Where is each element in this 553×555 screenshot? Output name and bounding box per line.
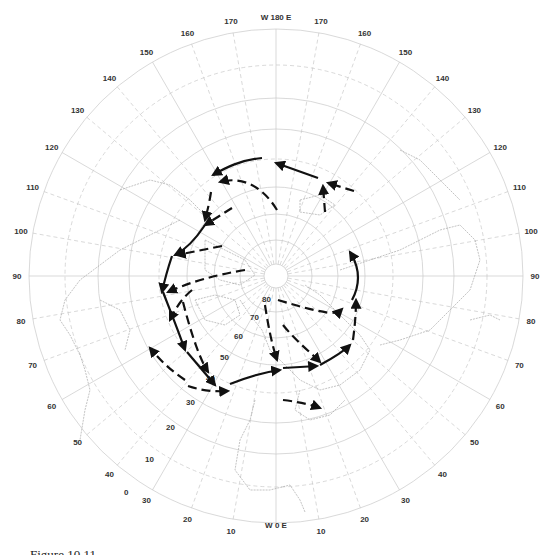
longitude-label-west: 170 xyxy=(224,17,238,26)
meridian-line xyxy=(233,33,274,264)
meridian-line xyxy=(278,33,319,264)
meridian-line xyxy=(62,153,266,271)
flow-arrows xyxy=(150,158,358,408)
longitude-label-east: 70 xyxy=(515,361,524,370)
meridian-line xyxy=(287,192,508,272)
longitude-label-west: 70 xyxy=(28,361,37,370)
meridian-line xyxy=(87,117,267,268)
meridian-line xyxy=(280,287,360,508)
longitude-label-east: 140 xyxy=(436,74,450,83)
arrow-solid xyxy=(276,163,318,178)
longitude-label-west: 110 xyxy=(26,183,39,192)
longitude-label-west: 10 xyxy=(227,527,236,536)
longitude-label-west: 50 xyxy=(73,438,82,447)
meridian-line xyxy=(33,233,264,274)
coastlines xyxy=(60,150,500,512)
longitude-label-west: 40 xyxy=(105,470,114,479)
arrow-solid xyxy=(230,370,280,384)
longitude-label-west: 160 xyxy=(181,29,195,38)
lat-50: 50 xyxy=(220,353,229,362)
meridian-line xyxy=(287,280,508,360)
lat-0: 0 xyxy=(124,488,129,497)
arrow-dash xyxy=(328,183,354,191)
arrow-solid xyxy=(283,366,317,368)
lat-60: 60 xyxy=(234,332,243,341)
longitude-label-east: 130 xyxy=(468,106,482,115)
arrow-dash xyxy=(188,386,228,391)
meridian-line xyxy=(282,62,400,266)
figure-caption: Figure 10.11 ... xyxy=(30,545,530,555)
longitude-label-east: 30 xyxy=(401,496,410,505)
meridian-line xyxy=(286,282,490,400)
meridian-line xyxy=(285,284,465,435)
longitude-label-west: 20 xyxy=(183,515,192,524)
meridian-line xyxy=(284,87,435,267)
arrow-solid xyxy=(320,345,350,365)
meridian-line xyxy=(280,44,360,265)
lat-20: 20 xyxy=(166,423,175,432)
arrow-dash xyxy=(283,325,320,362)
lat-10: 10 xyxy=(145,455,154,464)
arrow-dash xyxy=(168,270,245,292)
longitude-label-east: 170 xyxy=(314,17,328,26)
lat-80: 80 xyxy=(262,295,271,304)
longitude-label-east: 80 xyxy=(527,317,536,326)
longitude-label-west: 150 xyxy=(140,48,154,57)
longitude-label-west: 30 xyxy=(142,496,151,505)
meridian-line xyxy=(192,44,272,265)
longitude-label-west: 140 xyxy=(103,74,117,83)
arrow-dash xyxy=(283,400,320,408)
longitude-label-east: 150 xyxy=(399,48,413,57)
longitude-label-east: 20 xyxy=(360,515,369,524)
arrow-solid xyxy=(213,158,262,175)
meridian-line xyxy=(117,285,268,465)
meridian-line xyxy=(278,288,319,519)
longitude-label-west: 100 xyxy=(14,227,28,236)
label-180: W 180 E xyxy=(261,13,292,22)
longitude-label-west: 60 xyxy=(47,402,56,411)
longitude-grid xyxy=(29,29,523,523)
arrow-solid xyxy=(162,256,172,292)
meridian-line xyxy=(33,278,264,319)
longitude-label-east: 60 xyxy=(496,402,505,411)
longitude-label-west: 80 xyxy=(16,317,25,326)
longitude-label-east: 120 xyxy=(494,143,508,152)
longitude-label-west: 130 xyxy=(71,106,85,115)
meridian-line xyxy=(284,285,435,465)
longitude-label-east: 110 xyxy=(513,183,526,192)
arrow-dash xyxy=(220,180,277,210)
meridian-line xyxy=(286,153,490,271)
meridian-line xyxy=(282,286,400,490)
meridian-line xyxy=(153,62,271,266)
meridian-line xyxy=(285,117,465,268)
longitude-label-east: 40 xyxy=(438,470,447,479)
meridian-line xyxy=(288,233,519,274)
lat-30: 30 xyxy=(186,398,195,407)
longitude-label-east: 90 xyxy=(531,272,540,281)
latitude-labels: 80 70 60 50 40 30 20 10 0 xyxy=(124,295,271,497)
arrow-dash xyxy=(265,305,277,360)
longitude-label-west: 90 xyxy=(13,272,22,281)
longitude-label-east: 10 xyxy=(317,527,326,536)
arrow-dash xyxy=(323,186,325,212)
longitude-label-east: 160 xyxy=(358,29,372,38)
meridian-line xyxy=(44,192,265,272)
label-0: W 0 E xyxy=(265,521,287,530)
arrow-dash xyxy=(205,208,232,225)
longitude-label-east: 50 xyxy=(470,438,479,447)
longitude-label-west: 120 xyxy=(45,143,59,152)
longitude-label-east: 100 xyxy=(524,227,538,236)
